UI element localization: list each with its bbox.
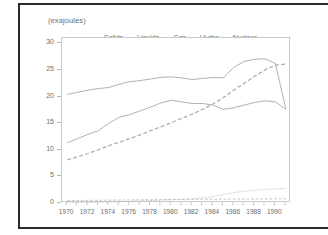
x-axis-tick-label: 1990 (262, 208, 286, 215)
y-axis-tick-mark (57, 42, 61, 43)
y-axis-tick-label: 0 (34, 198, 54, 205)
page-root: (exajoules) SolidsLiquidsGasHydroNuclear… (0, 0, 328, 235)
y-axis-tick-label: 5 (34, 171, 54, 178)
y-axis-tick-mark (57, 149, 61, 150)
chart-series-layer (62, 38, 291, 203)
chart-series-hydro (67, 199, 286, 201)
chart-axis-unit-label: (exajoules) (48, 16, 86, 25)
y-axis-tick-mark (57, 96, 61, 97)
y-axis-tick-label: 10 (34, 145, 54, 152)
y-axis-tick-label: 30 (34, 38, 54, 45)
chart-plot-area (61, 37, 290, 202)
y-axis-tick-mark (57, 122, 61, 123)
chart-series-liquids (67, 100, 286, 143)
y-axis-tick-label: 20 (34, 92, 54, 99)
y-axis-tick-mark (57, 69, 61, 70)
y-axis-tick-label: 15 (34, 118, 54, 125)
y-axis-tick-label: 25 (34, 65, 54, 72)
y-axis-tick-mark (57, 175, 61, 176)
chart-series-gas (67, 64, 286, 160)
page-border-bottom (18, 227, 328, 229)
